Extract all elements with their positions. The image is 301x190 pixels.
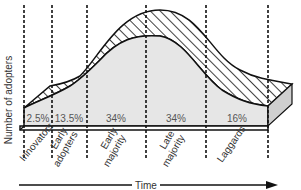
percent-laggards: 16% — [227, 113, 247, 124]
percent-late-majority: 34% — [166, 113, 186, 124]
percent-early-majority: 34% — [106, 113, 126, 124]
arrow-head-icon — [266, 181, 278, 189]
x-axis-label: Time — [135, 180, 157, 190]
adoption-curve-diagram: Number of adopters 2.5% 13.5% 34% 34% 16… — [0, 0, 301, 190]
label-early-majority: Early majority — [91, 126, 128, 169]
percent-early-adopters: 13.5% — [55, 113, 83, 124]
label-late-majority: Late majority — [150, 127, 187, 168]
y-axis-label: Number of adopters — [3, 56, 14, 144]
